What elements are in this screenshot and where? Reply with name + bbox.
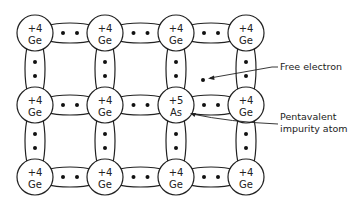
atom-symbol: Ge: [28, 107, 42, 118]
germanium-atom: +4Ge: [17, 15, 53, 51]
impurity-label-line2: impurity atom: [280, 123, 347, 134]
atom-charge: +4: [28, 23, 43, 34]
bond-electron: [216, 175, 220, 179]
bond-electron: [61, 31, 65, 35]
germanium-atom: +4Ge: [228, 15, 264, 51]
atom-charge: +4: [28, 167, 43, 178]
bond-electron: [244, 132, 248, 136]
bond-electron: [216, 103, 220, 107]
bond-electron: [174, 60, 178, 64]
atom-symbol: Ge: [169, 179, 183, 190]
bond-electron: [33, 74, 37, 78]
bond-electron: [244, 74, 248, 78]
bond-electron: [103, 146, 107, 150]
bond-electron: [202, 31, 206, 35]
free-electron-label: Free electron: [280, 61, 342, 72]
atom-charge: +4: [239, 167, 254, 178]
bond-electron: [244, 146, 248, 150]
atom-charge: +4: [169, 23, 184, 34]
bond-electron: [33, 146, 37, 150]
germanium-atom: +4Ge: [158, 159, 194, 195]
atom-symbol: Ge: [98, 107, 112, 118]
bond-electron: [132, 31, 136, 35]
atom-symbol: As: [170, 107, 182, 118]
bond-electron: [174, 74, 178, 78]
atom-symbol: Ge: [239, 35, 253, 46]
bond-electron: [216, 31, 220, 35]
bond-electron: [75, 175, 79, 179]
atom-symbol: Ge: [28, 35, 42, 46]
atom-charge: +4: [98, 23, 113, 34]
free-electron-arrowhead: [208, 76, 215, 81]
bond-electron: [132, 175, 136, 179]
bond-electron: [61, 175, 65, 179]
bond-electron: [33, 60, 37, 64]
atom-symbol: Ge: [239, 107, 253, 118]
bond-electron: [75, 31, 79, 35]
atom-symbol: Ge: [98, 35, 112, 46]
bond-electron: [146, 103, 150, 107]
atom-symbol: Ge: [169, 35, 183, 46]
impurity-label-line1: Pentavalent: [280, 111, 337, 122]
germanium-atom: +4Ge: [87, 87, 123, 123]
bond-electron: [174, 132, 178, 136]
bond-electron: [103, 74, 107, 78]
germanium-atom: +4Ge: [17, 87, 53, 123]
crystal-lattice-diagram: +4Ge+4Ge+4Ge+4Ge+4Ge+4Ge+5As+4Ge+4Ge+4Ge…: [0, 0, 350, 210]
atom-charge: +5: [169, 95, 184, 106]
arsenic-atom: +5As: [158, 87, 194, 123]
bond-electron: [33, 132, 37, 136]
bond-electron: [174, 146, 178, 150]
germanium-atom: +4Ge: [228, 159, 264, 195]
germanium-atom: +4Ge: [158, 15, 194, 51]
germanium-atom: +4Ge: [87, 159, 123, 195]
atom-symbol: Ge: [239, 179, 253, 190]
atom-symbol: Ge: [28, 179, 42, 190]
bond-electron: [202, 175, 206, 179]
atom-charge: +4: [169, 167, 184, 178]
bond-electron: [132, 103, 136, 107]
atom-charge: +4: [28, 95, 43, 106]
germanium-atom: +4Ge: [228, 87, 264, 123]
bond-electron: [75, 103, 79, 107]
bond-electron: [202, 103, 206, 107]
atom-charge: +4: [239, 23, 254, 34]
bond-electron: [103, 132, 107, 136]
germanium-atom: +4Ge: [87, 15, 123, 51]
bond-electron: [61, 103, 65, 107]
atom-charge: +4: [239, 95, 254, 106]
bond-electron: [146, 31, 150, 35]
bond-electron: [103, 60, 107, 64]
covalent-bonds: [25, 23, 256, 187]
atom-symbol: Ge: [98, 179, 112, 190]
atom-charge: +4: [98, 95, 113, 106]
bond-electron: [244, 60, 248, 64]
bond-electron: [146, 175, 150, 179]
free-electron-dot: [201, 78, 205, 82]
atom-charge: +4: [98, 167, 113, 178]
germanium-atom: +4Ge: [17, 159, 53, 195]
